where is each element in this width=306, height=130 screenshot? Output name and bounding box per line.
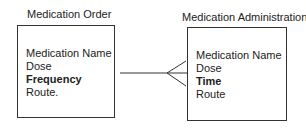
relationship-connector [0, 0, 306, 130]
